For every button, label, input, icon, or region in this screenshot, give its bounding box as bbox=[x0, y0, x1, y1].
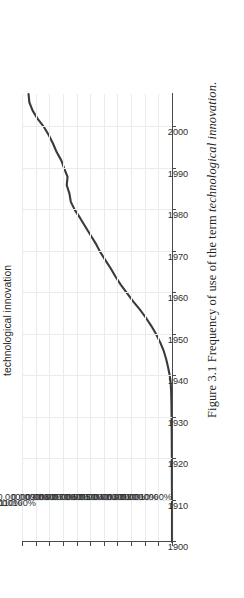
x-axis-label: 1960 bbox=[168, 293, 188, 303]
x-axis-line bbox=[172, 93, 173, 542]
gridline-horizontal bbox=[90, 94, 91, 542]
y-axis-tick bbox=[145, 542, 146, 546]
gridline-horizontal bbox=[49, 94, 50, 542]
plot-area bbox=[22, 94, 172, 542]
caption-suffix: . bbox=[205, 82, 219, 85]
gridline-vertical bbox=[22, 251, 172, 252]
gridline-vertical bbox=[22, 375, 172, 376]
y-axis-tick bbox=[49, 542, 50, 546]
gridline-horizontal bbox=[63, 94, 64, 542]
y-axis-tick bbox=[36, 542, 37, 546]
y-axis-tick bbox=[22, 542, 23, 546]
gridline-horizontal bbox=[145, 94, 146, 542]
y-axis-tick bbox=[90, 542, 91, 546]
x-axis-label: 1970 bbox=[168, 252, 188, 262]
figure-caption: Figure 3.1 Frequency of use of the term … bbox=[205, 88, 220, 418]
gridline-vertical bbox=[22, 334, 172, 335]
gridline-vertical bbox=[22, 417, 172, 418]
chart-title: technological innovation bbox=[2, 43, 13, 598]
x-axis-label: 1930 bbox=[168, 418, 188, 428]
gridline-horizontal bbox=[77, 94, 78, 542]
x-axis-label: 2000 bbox=[168, 127, 188, 137]
gridline-horizontal bbox=[36, 94, 37, 542]
gridline-horizontal bbox=[104, 94, 105, 542]
gridline-vertical bbox=[22, 458, 172, 459]
x-axis-label: 1900 bbox=[168, 542, 188, 552]
rotated-figure-page: technological innovation 190019101920193… bbox=[0, 0, 244, 598]
gridline-horizontal bbox=[158, 94, 159, 542]
y-axis-tick bbox=[63, 542, 64, 546]
caption-term: technological innovation bbox=[205, 85, 219, 212]
y-axis-tick bbox=[158, 542, 159, 546]
series-line bbox=[22, 94, 172, 542]
y-axis-tick bbox=[77, 542, 78, 546]
gridline-vertical bbox=[22, 292, 172, 293]
ngram-chart: technological innovation 190019101920193… bbox=[0, 43, 196, 598]
caption-prefix: Figure 3.1 Frequency of use of the term bbox=[205, 212, 219, 418]
gridline-vertical bbox=[22, 168, 172, 169]
x-axis-label: 1950 bbox=[168, 335, 188, 345]
gridline-horizontal bbox=[117, 94, 118, 542]
x-axis-label: 1940 bbox=[168, 376, 188, 386]
x-axis-label: 1990 bbox=[168, 169, 188, 179]
y-axis-tick bbox=[117, 542, 118, 546]
y-axis-line bbox=[22, 541, 173, 542]
gridline-horizontal bbox=[22, 94, 23, 542]
gridline-horizontal bbox=[131, 94, 132, 542]
y-axis-tick bbox=[131, 542, 132, 546]
y-axis-tick bbox=[172, 542, 173, 546]
y-axis-tick bbox=[104, 542, 105, 546]
x-axis-label: 1920 bbox=[168, 459, 188, 469]
gridline-vertical bbox=[22, 209, 172, 210]
x-axis-label: 1980 bbox=[168, 210, 188, 220]
y-axis-label: 0.000110% bbox=[0, 498, 22, 508]
gridline-vertical bbox=[22, 126, 172, 127]
